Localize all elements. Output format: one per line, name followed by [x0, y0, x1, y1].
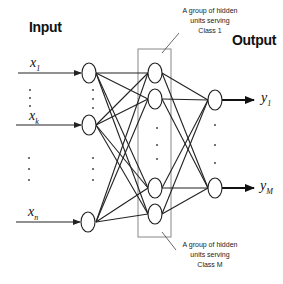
hidden-node-class1-b [148, 89, 162, 109]
ellipsis-dots [28, 89, 216, 181]
input-label-xn: xn [28, 204, 38, 222]
annotation-classM: A group of hidden units serving Class M [168, 240, 252, 270]
hidden-node-classM-a [148, 178, 162, 198]
annotation-class1: A group of hidden units serving Class 1 [168, 6, 252, 36]
output-layer [208, 90, 222, 198]
output-label-yM: yM [260, 178, 273, 196]
input-node-1 [82, 63, 96, 83]
hidden-node-classM-b [148, 204, 162, 224]
output-arrows [222, 100, 254, 188]
hidden-node-class1-a [148, 63, 162, 83]
input-hidden-connections [96, 73, 148, 222]
hidden-layer [148, 63, 162, 224]
input-node-k [82, 115, 96, 135]
output-node-M [208, 178, 222, 198]
input-arrows [16, 73, 81, 222]
input-label-x1: x1 [30, 55, 40, 73]
output-label-y1: y1 [261, 90, 271, 108]
hidden-output-connections [162, 73, 208, 214]
input-layer [81, 63, 96, 232]
output-node-1 [208, 90, 222, 110]
input-title: Input [29, 19, 62, 35]
input-node-n [81, 212, 95, 232]
input-label-xk: xk [29, 108, 39, 126]
